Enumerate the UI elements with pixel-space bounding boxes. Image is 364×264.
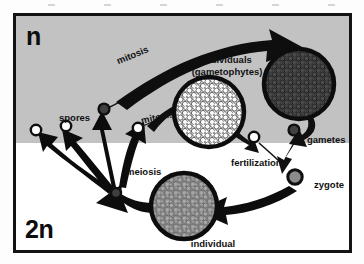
life-cycle-diagram: n 2n mitosis individuals (gametophytes) … [13,13,352,253]
label-individuals-gametophytes: individuals (gametophytes) [181,54,273,77]
label-individuals-line1: individuals [202,54,252,65]
label-individual-line2: (sporophyte) [184,250,242,254]
label-gametes: gametes [307,134,346,145]
label-zygote: zygote [314,179,344,190]
label-individual-line1: individual [191,238,235,249]
label-individual-sporophyte: individual (sporophyte) [163,238,263,253]
diagram-canvas: n 2n mitosis individuals (gametophytes) … [0,0,364,264]
diploid-region-band [16,143,349,250]
label-individuals-line2: (gametophytes) [192,66,263,77]
haploid-region-band [16,16,349,143]
label-spores: spores [59,112,90,123]
scan-cut-marks [0,4,364,6]
label-meiosis: meiosis [126,166,161,177]
label-fertilization: fertilization [231,157,282,168]
ploidy-label-diploid: 2n [25,217,53,242]
ploidy-label-haploid: n [26,24,41,49]
